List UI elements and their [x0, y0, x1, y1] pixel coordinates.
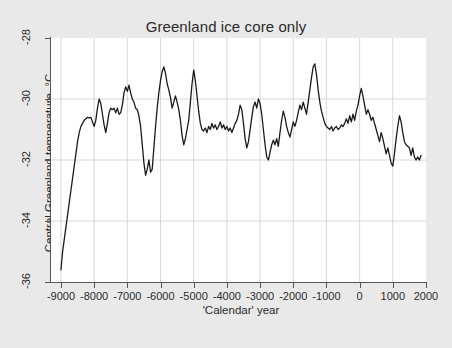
- x-tick-mark: [194, 283, 195, 288]
- y-tick-label: -34: [20, 203, 32, 237]
- data-series: [61, 64, 421, 270]
- x-axis-title: 'Calendar' year: [51, 304, 431, 316]
- x-tick-mark: [94, 283, 95, 288]
- y-tick-label: -30: [20, 81, 32, 115]
- x-tick-label: 2000: [404, 290, 448, 302]
- x-tick-mark: [426, 283, 427, 288]
- plot-area: [51, 38, 426, 282]
- y-tick-mark: [45, 160, 51, 161]
- plot-svg: [51, 38, 426, 282]
- y-tick-mark: [45, 99, 51, 100]
- x-tick-mark: [161, 283, 162, 288]
- x-tick-mark: [127, 283, 128, 288]
- x-tick-mark: [326, 283, 327, 288]
- x-axis-spine: [50, 282, 427, 283]
- y-tick-label: -32: [20, 142, 32, 176]
- x-tick-mark: [293, 283, 294, 288]
- y-tick-mark: [45, 282, 51, 283]
- x-tick-mark: [227, 283, 228, 288]
- y-tick-mark: [45, 38, 51, 39]
- x-tick-mark: [61, 283, 62, 288]
- series-line: [61, 64, 421, 270]
- screenshot-root: Greenland ice core only Central Greenlan…: [0, 0, 452, 348]
- x-tick-mark: [393, 283, 394, 288]
- x-tick-mark: [360, 283, 361, 288]
- y-tick-label: -28: [20, 20, 32, 54]
- y-tick-label: -36: [20, 264, 32, 298]
- x-tick-mark: [260, 283, 261, 288]
- gridlines: [51, 38, 426, 282]
- y-tick-mark: [45, 221, 51, 222]
- page-title: Greenland ice core only: [7, 18, 445, 35]
- chart-figure: Greenland ice core only Central Greenlan…: [7, 7, 445, 325]
